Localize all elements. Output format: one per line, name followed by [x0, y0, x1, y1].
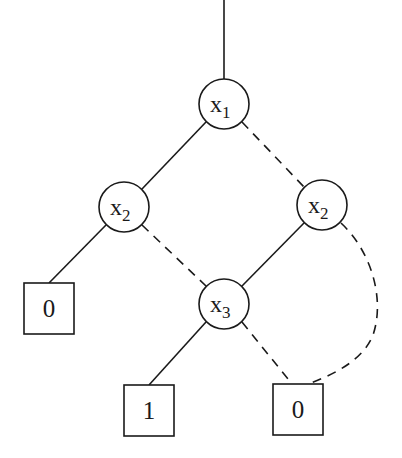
edge-x2-left-terminal-0 [49, 225, 106, 283]
edge-x2-left-x3 [142, 225, 206, 286]
svg-text:0: 0 [43, 295, 56, 322]
node-x3: x3 [199, 279, 249, 329]
edge-x2-right-terminal-0 [308, 223, 377, 384]
node-x1: x1 [199, 79, 249, 129]
edge-x3-terminal-0 [242, 322, 292, 384]
node-x2-right: x2 [297, 180, 347, 230]
terminal-0-left: 0 [24, 283, 74, 334]
edge-x2-right-x3 [242, 223, 304, 286]
edge-x1-x2-left [142, 122, 206, 189]
svg-text:0: 0 [292, 396, 305, 423]
bdd-diagram: x1 x2 x2 x3 0 1 0 [0, 0, 402, 458]
terminal-1: 1 [124, 385, 174, 436]
svg-text:1: 1 [143, 397, 156, 424]
edge-x1-x2-right [242, 122, 304, 187]
node-x2-left: x2 [99, 182, 149, 232]
edge-x3-terminal-1 [149, 322, 206, 385]
terminal-0-right: 0 [273, 384, 323, 435]
